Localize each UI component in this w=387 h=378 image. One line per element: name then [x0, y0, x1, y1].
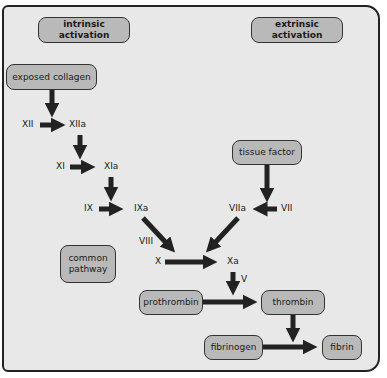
factor-IX: IX — [84, 203, 93, 213]
fibrinogen-box: fibrinogen — [204, 335, 263, 360]
factor-Xa: Xa — [227, 256, 239, 266]
factor-X: X — [155, 256, 161, 266]
factor-XIIa: XIIa — [69, 119, 86, 129]
factor-VII: VII — [281, 203, 292, 213]
prothrombin-box: prothrombin — [139, 290, 203, 315]
common-pathway-box: common pathway — [60, 245, 116, 283]
factor-IXa: IXa — [134, 203, 148, 213]
exposed-collagen-box: exposed collagen — [6, 64, 97, 90]
intrinsic-activation-header: intrinsic activation — [38, 17, 130, 43]
tissue-factor-box: tissue factor — [232, 140, 302, 165]
factor-XI: XI — [56, 161, 65, 171]
factor-VIIa: VIIa — [229, 203, 246, 213]
fibrin-box: fibrin — [322, 335, 362, 360]
extrinsic-activation-header: extrinsic activation — [251, 17, 343, 43]
factor-XIa: XIa — [104, 161, 118, 171]
factor-XII: XII — [22, 119, 33, 129]
arrows-layer — [0, 0, 387, 378]
factor-VIII: VIII — [139, 236, 153, 246]
factor-V: V — [241, 274, 247, 284]
thrombin-box: thrombin — [261, 290, 325, 315]
